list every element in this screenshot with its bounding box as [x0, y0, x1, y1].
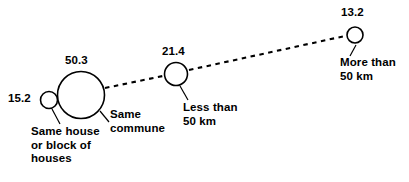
category-label-same-house-line2: or block of	[31, 139, 100, 153]
leader-line-more-than-50km	[350, 45, 356, 56]
category-label-less-than-50km: Less than 50 km	[183, 101, 238, 128]
bubble-same-house[interactable]	[41, 92, 58, 109]
bubble-same-commune[interactable]	[58, 72, 105, 119]
category-label-more-than-50km-line2: 50 km	[340, 70, 396, 84]
leader-line-less-than-50km	[180, 86, 188, 100]
bubble-less-than-50km[interactable]	[165, 63, 188, 86]
category-label-same-house-line3: houses	[31, 152, 100, 166]
category-label-less-than-50km-line2: 50 km	[183, 115, 238, 129]
category-label-less-than-50km-line1: Less than	[183, 101, 238, 115]
leader-line-same-commune	[100, 111, 109, 122]
category-label-same-commune: Same commune	[110, 108, 165, 135]
value-label-less-than-50km: 21.4	[162, 45, 185, 57]
category-label-more-than-50km-line1: More than	[340, 56, 396, 70]
value-label-same-house: 15.2	[8, 92, 31, 104]
category-label-same-house-line1: Same house	[31, 125, 100, 139]
category-label-same-house: Same house or block of houses	[31, 125, 100, 166]
bubble-more-than-50km[interactable]	[347, 27, 363, 43]
bubble-chart: 15.2 50.3 21.4 13.2 Same house or block …	[0, 0, 409, 182]
category-label-same-commune-line2: commune	[110, 122, 165, 136]
trend-line-segment-1	[105, 76, 163, 88]
leader-line-same-house	[52, 109, 60, 124]
value-label-same-commune: 50.3	[65, 54, 88, 66]
category-label-more-than-50km: More than 50 km	[340, 56, 396, 83]
trend-line-segment-2	[189, 36, 345, 70]
category-label-same-commune-line1: Same	[110, 108, 165, 122]
value-label-more-than-50km: 13.2	[341, 6, 364, 18]
